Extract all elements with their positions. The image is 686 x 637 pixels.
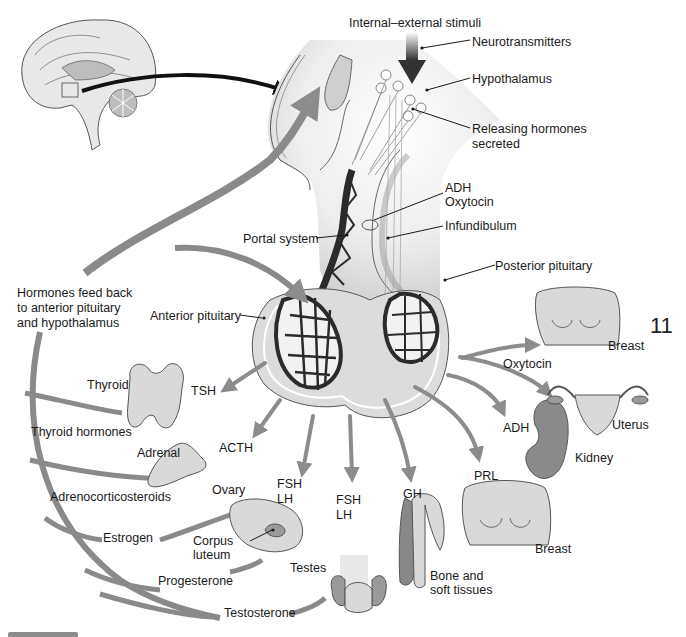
- label-infundibulum: Infundibulum: [445, 219, 517, 233]
- breast-prl-organ: [462, 481, 550, 546]
- label-releasing-hormones: Releasing hormones: [472, 122, 587, 136]
- ovary-organ: [230, 499, 303, 552]
- label-portal-system: Portal system: [243, 232, 319, 246]
- kidney-organ: [526, 400, 568, 479]
- label-testes: Testes: [290, 561, 326, 575]
- label-stimuli: Internal–external stimuli: [349, 16, 481, 30]
- label-acth: ACTH: [219, 441, 253, 455]
- label-progesterone: Progesterone: [158, 574, 233, 588]
- label-adh: ADH: [503, 421, 529, 435]
- adh-arrow: [448, 375, 502, 410]
- label-lh-1: LH: [277, 492, 293, 506]
- fsh-lh-arrow-1: [303, 416, 313, 470]
- label-ovary: Ovary: [212, 483, 246, 497]
- figure-tag-bar: [8, 632, 78, 637]
- pituitary-gland: [252, 289, 448, 418]
- label-thyroid: Thyroid: [87, 378, 129, 392]
- label-estrogen: Estrogen: [103, 531, 153, 545]
- label-kidney: Kidney: [575, 451, 614, 465]
- label-breast-bottom: Breast: [535, 542, 572, 556]
- label-prl: PRL: [474, 469, 498, 483]
- label-neurotransmitters: Neurotransmitters: [472, 35, 571, 49]
- acth-arrow: [257, 400, 280, 432]
- label-feedback-2: to anterior pituitary: [17, 301, 121, 315]
- label-feedback-3: and hypothalamus: [17, 316, 119, 330]
- label-tsh: TSH: [191, 384, 216, 398]
- label-breast-top: Breast: [608, 339, 645, 353]
- label-fsh-2: FSH: [336, 493, 361, 507]
- label-posterior-pituitary: Posterior pituitary: [495, 259, 593, 273]
- label-thyroid-hormones: Thyroid hormones: [31, 425, 132, 439]
- label-adh-top: ADH: [445, 181, 471, 195]
- label-gh: GH: [403, 487, 422, 501]
- label-bone-2: soft tissues: [430, 583, 493, 597]
- label-oxytocin-top: Oxytocin: [445, 195, 494, 209]
- label-adrenal: Adrenal: [137, 446, 180, 460]
- label-feedback-1: Hormones feed back: [17, 286, 133, 300]
- fsh-lh-arrow-2: [350, 416, 352, 475]
- label-lh-2: LH: [336, 508, 352, 522]
- brain-illustration: [22, 20, 282, 150]
- label-luteum: luteum: [193, 548, 231, 562]
- thyroid-organ: [128, 364, 184, 428]
- label-fsh-1: FSH: [277, 477, 302, 491]
- hypothalamic-pituitary-diagram: Internal–external stimuli Neurotransmitt…: [0, 0, 686, 637]
- page-number: 11: [650, 313, 673, 338]
- label-bone-1: Bone and: [430, 569, 484, 583]
- label-anterior-pituitary: Anterior pituitary: [150, 309, 242, 323]
- label-testosterone: Testosterone: [224, 606, 296, 620]
- label-uterus: Uterus: [612, 418, 649, 432]
- label-oxytocin: Oxytocin: [503, 357, 552, 371]
- testes-organ: [331, 555, 386, 613]
- label-corpus: Corpus: [193, 534, 233, 548]
- label-hypothalamus: Hypothalamus: [472, 72, 552, 86]
- breast-oxytocin-organ: [535, 287, 619, 345]
- label-releasing-hormones-2: secreted: [472, 137, 520, 151]
- label-adrenocorticosteroids: Adrenocorticosteroids: [50, 490, 171, 504]
